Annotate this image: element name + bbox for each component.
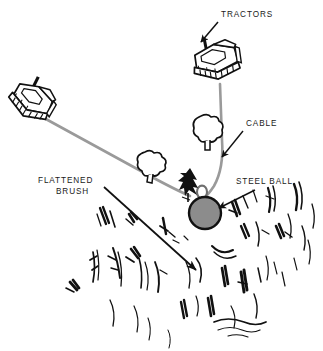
steel-ball: [189, 197, 221, 229]
label-cable: CABLE: [246, 119, 277, 128]
leader-tractors: [201, 22, 218, 42]
diagram-canvas: TRACTORS CABLE STEEL BALL FLATTENED BRUS…: [0, 0, 323, 351]
crawler-tractor-left: [4, 69, 64, 127]
deciduous-tree-left: [137, 151, 166, 183]
label-tractors: TRACTORS: [221, 10, 273, 19]
label-steel-ball: STEEL BALL: [236, 177, 293, 186]
leader-cable: [222, 131, 243, 157]
conifer-tree-dark: [178, 168, 198, 202]
crawler-tractor-right: [190, 33, 244, 82]
leader-flattened-brush: [104, 187, 196, 270]
label-flattened-brush-line1: FLATTENED: [38, 176, 93, 185]
label-flattened-brush-line2: BRUSH: [56, 187, 89, 196]
deciduous-tree-right: [193, 115, 223, 150]
